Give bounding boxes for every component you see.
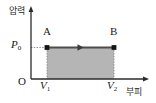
y-axis-label-text: 압력	[9, 6, 25, 16]
x-axis-label: 부피	[126, 88, 142, 97]
point-marker-a	[45, 45, 50, 50]
point-label-a: A	[43, 26, 51, 37]
pv-diagram-figure: 압력 부피 O P0 V1 V2 A B	[0, 0, 156, 103]
point-marker-b	[112, 45, 117, 50]
x-tick-label-v1: V1	[40, 80, 50, 91]
x-axis-arrowhead	[143, 77, 149, 82]
y-axis-label: 압력	[9, 6, 21, 16]
y-tick-symbol-p: P	[11, 38, 18, 50]
y-tick-label-p0: P0	[11, 39, 21, 50]
work-shaded-region	[47, 48, 114, 80]
x-tick-subscript-v1: 1	[47, 85, 51, 93]
point-label-b-text: B	[110, 25, 117, 37]
origin-label: O	[18, 76, 26, 87]
origin-label-text: O	[18, 75, 26, 87]
x-axis-label-text: 부피	[126, 87, 142, 97]
x-tick-symbol-v1: V	[40, 79, 47, 91]
point-label-b: B	[110, 26, 117, 37]
x-tick-subscript-v2: 2	[114, 85, 118, 93]
x-tick-label-v2: V2	[107, 80, 117, 91]
point-label-a-text: A	[43, 25, 51, 37]
y-axis-arrowhead	[29, 6, 34, 12]
y-tick-subscript-0: 0	[18, 44, 22, 52]
plot-area: 압력 부피 O P0 V1 V2 A B	[0, 0, 156, 103]
x-tick-symbol-v2: V	[107, 79, 114, 91]
